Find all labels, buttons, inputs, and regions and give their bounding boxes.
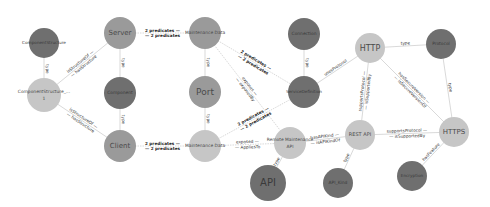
edge-label: — isSupportedBy — [389, 133, 426, 139]
edge-label: hasSecureVersion — — [397, 71, 431, 105]
node-label: Client — [110, 142, 131, 150]
graph-node[interactable]: ServiceDefinition — [286, 76, 322, 108]
graph-node[interactable]: Connection — [288, 18, 320, 50]
node-label: Remote Maintenance — [267, 137, 314, 142]
graph-svg[interactable]: typeisStructureOf —— hasStructureisStruc… — [0, 0, 490, 207]
graph-edge[interactable]: 2 predicates —— 2 predicates — [205, 33, 304, 92]
node-circle[interactable] — [274, 127, 306, 159]
graph-node[interactable]: REST API — [345, 120, 375, 150]
edge-label: type — [305, 58, 310, 68]
graph-node[interactable]: Remote MaintenanceAPI — [267, 127, 314, 159]
graph-node[interactable]: HTTPS — [439, 117, 469, 147]
graph-node[interactable]: API — [250, 165, 286, 201]
node-label: API — [260, 177, 276, 188]
knowledge-graph-canvas[interactable]: typeisStructureOf —— hasStructureisStruc… — [0, 0, 490, 207]
node-label: Encryption — [401, 173, 424, 178]
node-label: ComponentStructure — [22, 40, 66, 45]
graph-node[interactable]: Server — [104, 17, 136, 49]
graph-node[interactable]: Port — [189, 76, 221, 108]
graph-node[interactable]: Protocol — [426, 29, 456, 59]
edge-label: — AppliesTo — [235, 144, 261, 150]
graph-node[interactable]: Component — [104, 77, 136, 109]
node-label: Maintenance Data — [185, 143, 225, 148]
edges-layer: typeisStructureOf —— hasStructureisStruc… — [44, 28, 454, 184]
node-label: REST API — [349, 131, 371, 137]
edge-label: usesProtocol — [323, 58, 348, 77]
edge-label: 2 predicates — — [145, 141, 180, 146]
node-label: HTTPS — [443, 128, 466, 136]
edge-label: type — [206, 114, 211, 124]
edge-label: type — [121, 115, 126, 125]
edge-label: type — [206, 58, 211, 68]
edge-label: type — [45, 64, 50, 74]
edge-label: — 2 predicates — [145, 146, 181, 151]
node-label: HTTP — [360, 44, 381, 53]
node-label: Port — [196, 87, 214, 97]
node-label: Maintenance Data — [185, 30, 225, 35]
node-label-line2: API — [287, 144, 294, 149]
node-label-line2: 1 — [43, 96, 46, 101]
graph-node[interactable]: HTTP — [355, 33, 385, 63]
graph-node[interactable]: ComponentStructure — [22, 28, 66, 58]
node-label: Connection — [292, 31, 317, 36]
edge-label: type — [121, 58, 126, 68]
graph-node[interactable]: Maintenance Data — [185, 17, 225, 49]
graph-node[interactable]: Encryption — [397, 161, 427, 191]
graph-node[interactable]: API_Kind — [323, 168, 353, 198]
edge-label: 2 predicates — — [145, 28, 180, 33]
graph-node[interactable]: Client — [104, 130, 136, 162]
graph-node[interactable]: Maintenance Data — [185, 130, 225, 162]
edge-label: — 2 predicates — [145, 33, 181, 38]
node-label: Server — [109, 29, 132, 37]
node-label: Component — [107, 90, 133, 95]
graph-edge[interactable]: hasSecureVersion —— isSecureVersionOf — [370, 48, 454, 132]
node-label: ServiceDefinition — [286, 89, 322, 94]
node-label: Protocol — [432, 41, 450, 46]
node-circle[interactable] — [27, 78, 61, 112]
edge-label: hasFeature — [421, 141, 441, 162]
edge-label: type — [401, 40, 411, 46]
